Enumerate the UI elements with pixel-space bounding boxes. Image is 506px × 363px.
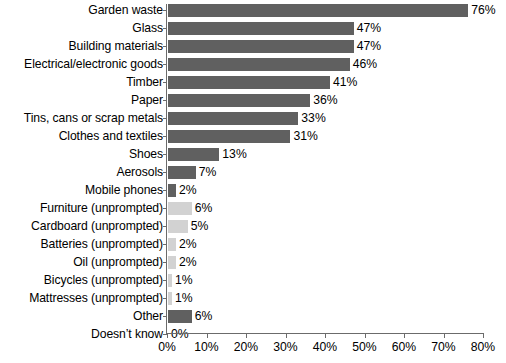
category-label: Mattresses (unprompted) — [29, 290, 163, 308]
bar-row: Clothes and textiles31% — [0, 128, 506, 146]
bar-container — [168, 94, 310, 107]
bar-value-label: 5% — [191, 219, 209, 234]
bar-value-label: 6% — [195, 201, 213, 216]
bar — [168, 130, 290, 143]
bar-row: Other6% — [0, 308, 506, 326]
bar-container — [168, 112, 298, 125]
bar — [168, 94, 310, 107]
x-tick — [286, 333, 287, 338]
x-tick-label: 20% — [234, 340, 258, 354]
bar-row: Cardboard (unprompted)5% — [0, 218, 506, 236]
bar-container — [168, 202, 192, 215]
bar-container — [168, 166, 196, 179]
x-tick-label: 60% — [392, 340, 416, 354]
bar-value-label: 46% — [353, 57, 377, 72]
bar — [168, 292, 172, 305]
x-tick — [167, 333, 168, 338]
x-tick — [483, 333, 484, 338]
bar-value-label: 47% — [357, 21, 381, 36]
bar-container — [168, 220, 188, 233]
bar-container — [168, 76, 330, 89]
bar — [168, 238, 176, 251]
bar-value-label: 2% — [179, 183, 197, 198]
x-tick — [404, 333, 405, 338]
x-tick-label: 70% — [431, 340, 455, 354]
bar-container — [168, 274, 172, 287]
bar-container — [168, 256, 176, 269]
category-label: Garden waste — [88, 2, 163, 20]
x-tick — [207, 333, 208, 338]
x-tick-label: 30% — [273, 340, 297, 354]
category-label: Furniture (unprompted) — [40, 200, 163, 218]
bar-value-label: 13% — [222, 147, 246, 162]
category-label: Batteries (unprompted) — [41, 236, 163, 254]
bar-container — [168, 130, 290, 143]
bar — [168, 58, 350, 71]
bar — [168, 184, 176, 197]
bar-row: Tins, cans or scrap metals33% — [0, 110, 506, 128]
x-tick-label: 50% — [352, 340, 376, 354]
bar — [168, 256, 176, 269]
bar — [168, 220, 188, 233]
bar-value-label: 2% — [179, 237, 197, 252]
category-label: Doesn’t know — [91, 326, 163, 344]
bar-row: Building materials47% — [0, 38, 506, 56]
bar — [168, 202, 192, 215]
bar-row: Batteries (unprompted)2% — [0, 236, 506, 254]
x-tick — [246, 333, 247, 338]
category-label: Cardboard (unprompted) — [31, 218, 163, 236]
category-label: Bicycles (unprompted) — [44, 272, 163, 290]
category-label: Other — [133, 308, 163, 326]
bar-row: Paper36% — [0, 92, 506, 110]
category-label: Mobile phones — [85, 182, 163, 200]
bar-value-label: 47% — [357, 39, 381, 54]
bar-row: Glass47% — [0, 20, 506, 38]
bar — [168, 274, 172, 287]
bar-row: Oil (unprompted)2% — [0, 254, 506, 272]
bar-row: Garden waste76% — [0, 2, 506, 20]
bar-value-label: 2% — [179, 255, 197, 270]
bar-row: Bicycles (unprompted)1% — [0, 272, 506, 290]
x-tick-label: 10% — [194, 340, 218, 354]
bar-row: Mobile phones2% — [0, 182, 506, 200]
category-label: Glass — [132, 20, 163, 38]
x-tick-label: 80% — [471, 340, 495, 354]
bar — [168, 310, 192, 323]
category-label: Paper — [131, 92, 163, 110]
bar-row: Electrical/electronic goods46% — [0, 56, 506, 74]
bar-value-label: 33% — [301, 111, 325, 126]
bar-container — [168, 22, 354, 35]
bar-chart: Garden waste76%Glass47%Building material… — [0, 0, 506, 363]
bar — [168, 76, 330, 89]
x-tick — [444, 333, 445, 338]
bar — [168, 40, 354, 53]
bar-value-label: 1% — [175, 291, 193, 306]
bar-container — [168, 238, 176, 251]
bar-value-label: 6% — [195, 309, 213, 324]
bar-container — [168, 292, 172, 305]
category-label: Timber — [126, 74, 163, 92]
bar — [168, 112, 298, 125]
bar-value-label: 1% — [175, 273, 193, 288]
bar — [168, 4, 468, 17]
bar-row: Aerosols7% — [0, 164, 506, 182]
x-tick-label: 0% — [158, 340, 176, 354]
category-label: Shoes — [129, 146, 163, 164]
category-label: Aerosols — [116, 164, 163, 182]
bar — [168, 22, 354, 35]
bar-value-label: 41% — [333, 75, 357, 90]
bar-container — [168, 310, 192, 323]
x-tick — [365, 333, 366, 338]
category-label: Tins, cans or scrap metals — [24, 110, 163, 128]
y-axis-line — [166, 4, 167, 334]
bar-value-label: 76% — [471, 3, 495, 18]
bar-row: Shoes13% — [0, 146, 506, 164]
bar-row: Timber41% — [0, 74, 506, 92]
bar-container — [168, 184, 176, 197]
bar — [168, 148, 219, 161]
bar-container — [168, 58, 350, 71]
x-tick — [325, 333, 326, 338]
bar-container — [168, 40, 354, 53]
category-label: Electrical/electronic goods — [24, 56, 163, 74]
x-tick-label: 40% — [313, 340, 337, 354]
